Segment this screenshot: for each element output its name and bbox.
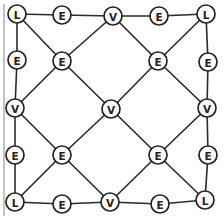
node-e-n31: E	[53, 146, 71, 164]
node-e-n13: E	[149, 52, 167, 70]
node-l-n00: L	[8, 5, 26, 23]
node-label: L	[14, 9, 21, 21]
node-label: E	[58, 10, 65, 22]
node-label: E	[11, 150, 18, 162]
node-l-n40: L	[6, 193, 24, 211]
node-label: E	[204, 57, 211, 69]
node-label: L	[202, 195, 209, 207]
node-e-n01: E	[53, 6, 71, 24]
edge-n22-n31	[62, 109, 111, 155]
node-e-n34: E	[199, 146, 217, 164]
node-label: E	[13, 55, 20, 67]
node-label: L	[12, 197, 19, 209]
edge-n02-n11	[62, 16, 113, 61]
node-e-n33: E	[149, 146, 167, 164]
node-label: V	[203, 103, 212, 115]
edge-n24-n33	[158, 108, 207, 155]
node-v-n42: V	[101, 193, 119, 211]
node-e-n03: E	[150, 7, 168, 25]
node-v-n02: V	[104, 7, 122, 25]
edge-n22-n33	[111, 109, 158, 155]
node-v-n20: V	[6, 99, 24, 117]
node-label: E	[204, 150, 211, 162]
node-v-n22: V	[102, 100, 120, 118]
node-l-n44: L	[196, 191, 214, 209]
edge-n31-n40	[15, 155, 62, 202]
node-label: E	[58, 150, 65, 162]
node-l-n04: L	[197, 5, 215, 23]
node-label: E	[156, 199, 163, 211]
node-e-n11: E	[53, 52, 71, 70]
node-e-n41: E	[53, 195, 71, 213]
node-label: V	[109, 11, 118, 23]
node-label: E	[58, 56, 65, 68]
edge-n13-n22	[111, 61, 158, 109]
edge-n20-n31	[15, 108, 62, 155]
edge-n11-n22	[62, 61, 111, 109]
node-label: L	[203, 9, 210, 21]
lattice-diagram: LEVELEEEEVVVEEEELEVEL	[0, 0, 224, 220]
node-label: E	[58, 199, 65, 211]
node-label: E	[154, 56, 161, 68]
node-label: E	[154, 150, 161, 162]
node-label: E	[155, 11, 162, 23]
node-e-n43: E	[151, 195, 169, 213]
node-e-n14: E	[199, 53, 217, 71]
edge-n33-n42	[110, 155, 158, 202]
node-e-n10: E	[8, 51, 26, 69]
node-v-n24: V	[198, 99, 216, 117]
node-label: V	[11, 103, 20, 115]
node-e-n30: E	[6, 146, 24, 164]
node-label: V	[107, 104, 116, 116]
edge-n13-n24	[158, 61, 207, 108]
node-label: V	[106, 197, 115, 209]
edge-n31-n42	[62, 155, 110, 202]
